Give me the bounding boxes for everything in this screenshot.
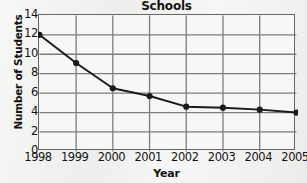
data-point-marker [73,60,79,66]
data-point-marker [146,93,152,99]
x-tick-label: 1999 [55,151,95,164]
x-axis-title: Year [38,167,295,180]
data-point-marker [293,109,298,115]
x-tick-label: 2002 [165,151,205,164]
x-tick-label: 2005 [275,151,307,164]
chart-canvas [38,14,298,153]
vertical-gridlines [76,15,260,151]
x-tick-label: 1998 [18,151,58,164]
data-point-marker [109,85,115,91]
x-tick-label: 2001 [128,151,168,164]
x-tick-label: 2004 [238,151,278,164]
y-axis-title: Number of Students [12,2,24,142]
data-point-marker [183,103,189,109]
plot-area [38,14,295,150]
data-point-marker [256,106,262,112]
chart-figure: Schools Number of Students Year 02468101… [0,0,307,183]
x-tick-label: 2003 [202,151,242,164]
x-tick-label: 2000 [91,151,131,164]
x-axis-tick-labels: 19981999200020012002200320042005 [38,151,295,167]
chart-title: Schools [38,0,295,13]
data-point-marker [219,104,225,110]
horizontal-gridlines [39,34,296,131]
